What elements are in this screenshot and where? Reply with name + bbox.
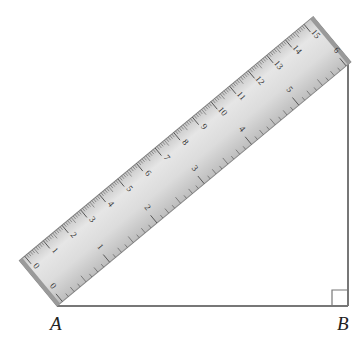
triangle-diagram: 0123456789101112131415 0123456 A B — [0, 0, 355, 349]
ruler: 0123456789101112131415 0123456 — [19, 15, 352, 306]
ruler-body — [19, 17, 351, 306]
point-label-a: A — [48, 313, 62, 334]
right-angle-marker — [332, 290, 348, 306]
point-label-b: B — [337, 313, 349, 334]
figure: 0123456789101112131415 0123456 A B — [0, 0, 355, 349]
